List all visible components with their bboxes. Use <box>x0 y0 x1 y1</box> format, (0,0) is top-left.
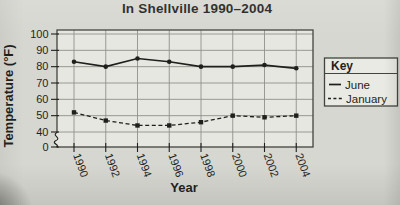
y-tick-label: 70 <box>36 77 48 89</box>
point-january-1990 <box>72 110 76 114</box>
y-tick-label: 50 <box>36 109 48 121</box>
y-tick-label: 40 <box>36 126 48 138</box>
y-tick-label: 80 <box>36 60 48 72</box>
point-june-1998 <box>199 64 204 69</box>
point-june-1994 <box>135 56 140 61</box>
x-tick-label: 2004 <box>293 152 313 179</box>
x-tick-label: 1996 <box>166 152 186 179</box>
point-june-2004 <box>294 66 299 71</box>
legend-title: Key <box>331 59 353 73</box>
point-june-1990 <box>72 59 77 64</box>
point-june-1992 <box>103 64 108 69</box>
point-january-2002 <box>262 115 266 119</box>
x-axis-label: Year <box>170 180 197 195</box>
x-tick-label: 1998 <box>198 152 218 179</box>
x-tick-label: 1994 <box>135 152 155 179</box>
y-tick-label: 60 <box>36 93 48 105</box>
x-tick-label: 2000 <box>230 152 250 179</box>
plot-background <box>57 30 313 147</box>
y-axis-label: Temperature (°F) <box>1 44 16 147</box>
plot-area: 0405060708090100199019921994199619982000… <box>30 28 313 179</box>
point-june-2000 <box>230 64 235 69</box>
y-tick-label: 0 <box>42 141 48 153</box>
x-tick-label: 1990 <box>71 152 91 179</box>
chart-title: In Shellville 1990–2004 <box>122 1 272 16</box>
point-january-1994 <box>135 123 139 127</box>
point-january-2000 <box>231 113 235 117</box>
point-january-2004 <box>294 113 298 117</box>
legend-january-label: January <box>346 93 387 105</box>
x-axis-ticks: 19901992199419961998200020022004 <box>71 143 313 179</box>
legend-june-label: June <box>345 79 370 91</box>
y-tick-label: 100 <box>30 28 48 40</box>
point-january-1992 <box>104 118 108 122</box>
point-june-1996 <box>167 59 172 64</box>
point-january-1998 <box>199 120 203 124</box>
y-tick-label: 90 <box>36 44 48 56</box>
x-tick-label: 1992 <box>103 152 123 179</box>
point-june-2002 <box>262 63 267 68</box>
temperature-line-chart: In Shellville 1990–2004 0405060708090100… <box>0 0 400 205</box>
point-january-1996 <box>167 123 171 127</box>
legend: Key June January <box>325 58 398 106</box>
x-tick-label: 2002 <box>262 152 282 179</box>
